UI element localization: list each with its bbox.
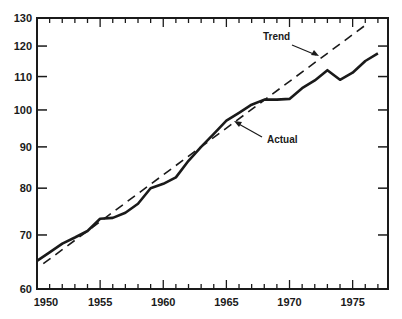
y-tick-label: 90 [20,141,32,153]
y-tick-label: 130 [14,12,32,24]
x-axis-ticks: 195019551960196519701975 [34,18,378,308]
y-tick-label: 70 [20,229,32,241]
series-line-actual [37,53,378,261]
annotations: Trend Actual [234,31,319,145]
x-tick-label: 1965 [214,296,238,308]
y-tick-label: 110 [14,71,32,83]
actual-annotation-arrow [237,123,262,137]
series-group [37,23,378,263]
y-tick-label: 120 [14,40,32,52]
x-tick-label: 1960 [151,296,175,308]
y-tick-label: 80 [20,182,32,194]
trend-arrowhead [311,50,319,56]
x-tick-label: 1970 [277,296,301,308]
x-tick-label: 1975 [340,296,364,308]
actual-arrowhead [234,121,242,127]
actual-annotation-label: Actual [267,134,298,145]
x-tick-label: 1950 [34,296,58,308]
trend-annotation-label: Trend [263,31,290,42]
y-tick-label: 60 [20,283,32,295]
y-tick-label: 100 [14,104,32,116]
x-tick-label: 1955 [88,296,112,308]
y-axis-ticks: 60708090100110120130 [14,12,388,295]
chart: 60708090100110120130 1950195519601965197… [0,0,402,319]
axes [37,18,388,289]
series-line-trend [43,23,368,263]
plot-frame [37,18,388,289]
